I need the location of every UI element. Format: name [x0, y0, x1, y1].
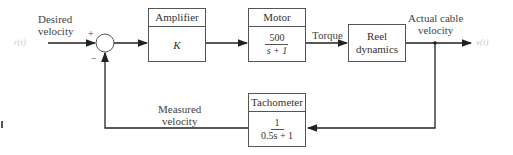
- plus-sign: +: [88, 28, 94, 40]
- input-label: Desired velocity: [38, 13, 73, 37]
- motor-block: Motor 500 s + 1: [248, 8, 306, 62]
- input-signal-label: r(t): [14, 37, 26, 47]
- summing-junction: [96, 34, 114, 52]
- output-signal-label: v(t): [476, 37, 489, 47]
- tachometer-transfer-function: 1 0.5s + 1: [257, 117, 297, 142]
- output-label: Actual cable velocity: [408, 12, 463, 36]
- minus-sign: −: [91, 53, 97, 65]
- feedback-label: Measured velocity: [158, 103, 201, 127]
- reel-dynamics-block: Reel dynamics: [348, 24, 406, 62]
- motor-title: Motor: [249, 9, 305, 27]
- torque-label: Torque: [312, 29, 343, 41]
- tachometer-title: Tachometer: [249, 94, 305, 112]
- motor-transfer-function: 500 s + 1: [263, 32, 292, 57]
- tachometer-block: Tachometer 1 0.5s + 1: [248, 93, 306, 147]
- amplifier-gain: K: [149, 27, 205, 62]
- amplifier-title: Amplifier: [149, 9, 205, 27]
- edge-mark: [1, 121, 3, 128]
- amplifier-block: Amplifier K: [148, 8, 206, 62]
